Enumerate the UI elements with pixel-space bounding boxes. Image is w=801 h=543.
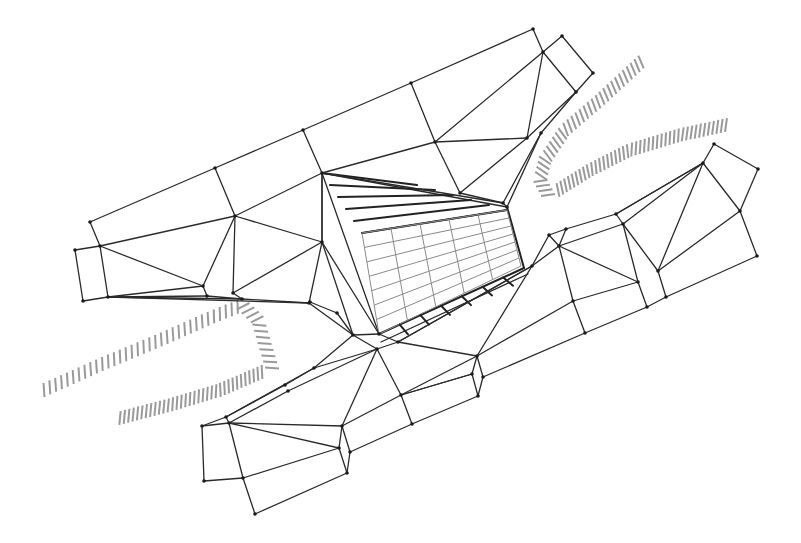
mesh-edge [507, 210, 521, 266]
mesh-edge [309, 242, 322, 303]
mesh-edge [235, 216, 322, 242]
mesh-edge [478, 377, 483, 396]
contour-hatch [44, 383, 45, 397]
mesh-node [621, 222, 625, 226]
mesh-edge [322, 142, 435, 173]
mesh-edge [573, 301, 585, 333]
mesh-node [377, 332, 381, 336]
mesh-edge [623, 224, 638, 282]
mesh-edge [566, 214, 616, 229]
contour-hatch [686, 127, 688, 141]
contour-hatch [184, 322, 185, 336]
mesh-edge [229, 423, 342, 426]
mesh-edge [322, 242, 353, 335]
contour-hatch [141, 405, 142, 419]
mesh-edge [435, 142, 460, 193]
contour-hatch [108, 355, 109, 369]
contour-hatch [619, 74, 624, 87]
mesh-node [701, 161, 705, 165]
mesh-edge [255, 473, 347, 514]
contour-hatch [631, 143, 632, 157]
mesh-edge [314, 349, 377, 368]
contour-hatch [682, 127, 684, 141]
mesh-node [470, 372, 474, 376]
contour-hatch [623, 70, 628, 83]
contour-hatch [220, 383, 221, 397]
mesh-edge [303, 83, 411, 130]
mesh-node [574, 90, 578, 94]
mesh-node [458, 191, 462, 195]
mesh-edge [623, 224, 658, 271]
mesh-node [227, 421, 231, 425]
contour-hatch [619, 148, 621, 162]
mesh-node [345, 471, 349, 475]
mesh-edge [377, 342, 398, 349]
contour-hatch [607, 84, 612, 97]
mesh-node [205, 294, 209, 298]
contour-hatch [177, 396, 178, 410]
mesh-node [301, 128, 305, 132]
contour-hatch [607, 154, 609, 168]
mesh-edge [322, 173, 503, 203]
mesh-edge [740, 211, 757, 256]
contour-hatch [67, 373, 68, 387]
mesh-node [410, 422, 414, 426]
mesh-node [399, 393, 403, 397]
mesh-edge [543, 36, 562, 52]
mesh-edge [616, 163, 703, 214]
architectural-plan [0, 0, 801, 543]
mesh-node [481, 375, 485, 379]
contour-hatch [678, 128, 679, 142]
mesh-edge [585, 307, 647, 333]
contour-hatch [163, 400, 164, 414]
contour-hatch [265, 368, 279, 369]
contour-hatch [245, 372, 246, 386]
mesh-node [557, 244, 561, 248]
mesh-node [396, 340, 400, 344]
mesh-edge [309, 303, 353, 335]
contour-hatch [644, 139, 645, 153]
mesh-edge [367, 226, 511, 262]
contour-hatch [611, 152, 613, 166]
mesh-edge [562, 36, 593, 73]
mesh-edge [342, 349, 377, 426]
mesh-edge [285, 368, 314, 385]
contour-hatch [73, 370, 74, 384]
mesh-edge [549, 235, 559, 246]
mesh-edge [75, 250, 83, 301]
contour-hatch [568, 176, 571, 190]
contour-hatch [159, 401, 160, 415]
mesh-edge [215, 130, 303, 168]
contour-hatch [636, 141, 637, 155]
mesh-node [320, 171, 324, 175]
mesh-node [656, 269, 660, 273]
contour-hatch [603, 156, 605, 170]
contour-hatch [49, 380, 50, 394]
contour-hatch [154, 402, 155, 416]
contour-hatch [90, 362, 91, 376]
mesh-edge [420, 224, 436, 307]
contour-hatch [214, 309, 215, 323]
mesh-edge [449, 219, 464, 293]
mesh-node [233, 214, 237, 218]
contour-hatch [557, 183, 560, 197]
mesh-edge [229, 391, 288, 423]
mesh-node [539, 131, 543, 135]
contour-hatch [251, 316, 263, 322]
mesh-node [320, 240, 324, 244]
contour-hatch [168, 398, 169, 412]
contour-hatch [61, 375, 62, 389]
mesh-edge [714, 144, 758, 169]
mesh-node [501, 201, 505, 205]
mesh-edge [372, 242, 515, 291]
contour-hatch [211, 386, 212, 400]
contour-hatch [126, 347, 127, 361]
contour-hatch [256, 337, 270, 338]
contour-hatch [567, 119, 572, 132]
contour-hatch [198, 389, 199, 403]
mesh-edge [364, 218, 509, 247]
mesh-edge [100, 216, 235, 246]
contour-hatch [259, 349, 273, 350]
mesh-node [348, 450, 352, 454]
contour-hatch [124, 410, 125, 424]
